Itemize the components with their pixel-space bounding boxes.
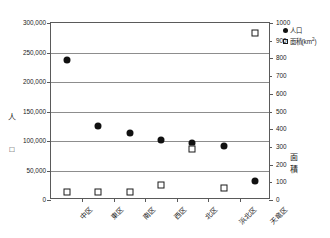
right-axis-tick (269, 200, 273, 201)
data-point-area (252, 29, 259, 36)
x-axis-tick-label: 東区 (108, 204, 125, 221)
legend-item-population: 人口 (283, 26, 317, 36)
gridline (51, 82, 269, 83)
x-axis-tick-label: 南区 (140, 204, 157, 221)
x-axis-tick-label: 北区 (203, 204, 220, 221)
data-point-area (220, 185, 227, 192)
left-axis-tick-label: 50,000 (2, 166, 46, 173)
right-axis-tick-label: 700 (276, 72, 304, 79)
data-point-area (126, 188, 133, 195)
gridline (51, 112, 269, 113)
filled-circle-icon (283, 28, 288, 33)
right-axis-tick (269, 41, 272, 42)
right-axis-tick-label: 200 (276, 160, 304, 167)
plot-area (50, 22, 270, 199)
x-axis-tick (114, 198, 115, 202)
x-axis-tick (82, 198, 83, 202)
left-axis-tick (47, 82, 51, 83)
data-point-population (126, 130, 133, 137)
x-axis-tick (208, 198, 209, 202)
left-axis-tick (47, 171, 51, 172)
right-axis-tick (269, 129, 273, 130)
left-axis-title-square: □ (4, 144, 20, 156)
right-axis-tick (269, 76, 272, 77)
data-point-area (158, 181, 165, 188)
right-axis-tick-label: 100 (276, 178, 304, 185)
x-axis-tick-label: 中区 (77, 204, 94, 221)
data-point-area (95, 188, 102, 195)
right-axis-tick (269, 112, 272, 113)
right-axis-tick (269, 182, 272, 183)
left-axis-tick-label: 250,000 (2, 48, 46, 55)
data-point-area (63, 189, 70, 196)
right-axis-tick (269, 58, 273, 59)
data-point-population (220, 143, 227, 150)
right-axis-tick-label: 600 (276, 89, 304, 96)
right-axis-tick (269, 23, 273, 24)
data-point-population (95, 122, 102, 129)
x-axis-tick-label: 浜北区 (236, 204, 258, 226)
right-axis-tick (269, 147, 272, 148)
left-axis-tick-label: 100,000 (2, 137, 46, 144)
data-point-area (189, 145, 196, 152)
right-axis-tick-label: 800 (276, 54, 304, 61)
x-axis-tick (145, 198, 146, 202)
right-axis-tick-label: 300 (276, 142, 304, 149)
data-point-population (63, 56, 70, 63)
left-axis-tick-label: 0 (2, 196, 46, 203)
data-point-population (158, 137, 165, 144)
right-axis-tick-label: 500 (276, 107, 304, 114)
left-axis-tick (47, 200, 51, 201)
left-axis-tick (47, 23, 51, 24)
left-axis-tick (47, 141, 51, 142)
chart-container: 人 □ 面 積 人口 面積(km2) 050,000100,000150,000… (0, 0, 330, 238)
right-axis-tick (269, 94, 273, 95)
x-axis-tick (177, 198, 178, 202)
right-axis-tick-label: 1000 (276, 19, 304, 26)
gridline (51, 171, 269, 172)
left-axis-tick-label: 150,000 (2, 107, 46, 114)
right-axis-tick-label: 0 (276, 196, 304, 203)
x-axis-tick-label: 西区 (171, 204, 188, 221)
x-axis-tick-label: 天竜区 (267, 204, 289, 226)
gridline (51, 53, 269, 54)
left-axis-tick (47, 53, 51, 54)
right-axis-tick-label: 900 (276, 36, 304, 43)
right-axis-tick (269, 165, 273, 166)
legend-label-population: 人口 (290, 26, 302, 36)
data-point-population (252, 177, 259, 184)
x-axis-tick (240, 198, 241, 202)
left-axis-tick-label: 200,000 (2, 78, 46, 85)
left-axis-tick-label: 300,000 (2, 19, 46, 26)
left-axis-tick (47, 112, 51, 113)
right-axis-tick-label: 400 (276, 125, 304, 132)
